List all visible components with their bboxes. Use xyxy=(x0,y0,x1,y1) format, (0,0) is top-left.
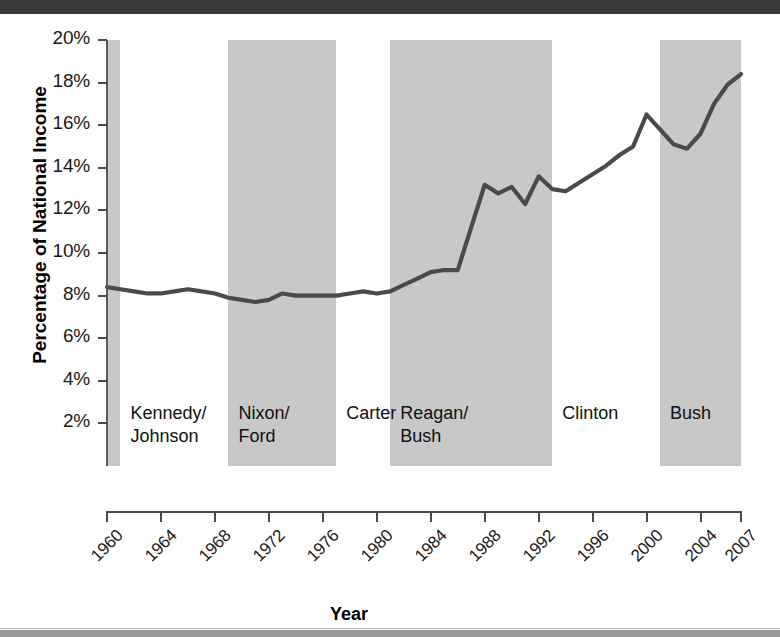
administration-label: Bush xyxy=(670,402,711,425)
x-axis-tick xyxy=(484,513,486,522)
y-axis-tick-label: 20% xyxy=(53,27,90,49)
x-axis-tick xyxy=(700,513,702,522)
x-axis-title: Year xyxy=(330,604,368,625)
x-axis-tick xyxy=(214,513,216,522)
y-axis-tick-label: 6% xyxy=(63,325,90,347)
y-axis-tick-label: 18% xyxy=(53,70,90,92)
y-axis-tick xyxy=(98,380,107,382)
administration-label-line1: Clinton xyxy=(562,402,618,425)
y-axis-tick-label: 14% xyxy=(53,155,90,177)
plot-area: Kennedy/JohnsonNixon/FordCarterReagan/Bu… xyxy=(107,40,741,466)
x-axis-tick xyxy=(740,513,742,522)
y-axis-tick xyxy=(98,422,107,424)
administration-label-line1: Carter xyxy=(346,402,396,425)
administration-label-line1: Bush xyxy=(670,402,711,425)
x-axis-tick xyxy=(376,513,378,522)
x-axis-tick xyxy=(322,513,324,522)
y-axis-tick xyxy=(98,295,107,297)
y-axis-tick xyxy=(98,252,107,254)
y-axis-tick xyxy=(98,337,107,339)
y-axis-tick-label: 12% xyxy=(53,197,90,219)
x-axis-tick xyxy=(646,513,648,522)
administration-label-line2: Johnson xyxy=(130,425,206,448)
x-axis-tick xyxy=(592,513,594,522)
y-axis-tick xyxy=(98,39,107,41)
x-axis-tick xyxy=(160,513,162,522)
y-axis-tick xyxy=(98,82,107,84)
y-axis-tick xyxy=(98,167,107,169)
administration-label-line1: Reagan/ xyxy=(400,402,468,425)
administration-label: Kennedy/Johnson xyxy=(130,402,206,448)
administration-label: Nixon/Ford xyxy=(238,402,289,448)
x-axis-tick xyxy=(106,513,108,522)
y-axis-tick-label: 8% xyxy=(63,283,90,305)
footer-rule xyxy=(0,628,780,629)
x-axis-tick xyxy=(268,513,270,522)
administration-label: Reagan/Bush xyxy=(400,402,468,448)
administration-label-line2: Ford xyxy=(238,425,289,448)
y-axis-tick xyxy=(98,209,107,211)
bottom-banner-bar xyxy=(0,630,780,637)
chart-figure: Kennedy/JohnsonNixon/FordCarterReagan/Bu… xyxy=(0,14,780,628)
x-axis-tick xyxy=(538,513,540,522)
y-axis-tick-label: 10% xyxy=(53,240,90,262)
y-axis-tick-label: 2% xyxy=(63,410,90,432)
administration-label-line1: Kennedy/ xyxy=(130,402,206,425)
top-banner-bar xyxy=(0,0,780,14)
administration-label: Clinton xyxy=(562,402,618,425)
x-axis-tick xyxy=(430,513,432,522)
x-axis-tick-label: 1960 xyxy=(0,526,127,637)
administration-label: Carter xyxy=(346,402,396,425)
y-axis-tick xyxy=(98,124,107,126)
data-line xyxy=(107,74,741,302)
administration-label-line2: Bush xyxy=(400,425,468,448)
y-axis-tick-label: 4% xyxy=(63,368,90,390)
y-axis-title: Percentage of National Income xyxy=(29,25,51,425)
y-axis-tick-label: 16% xyxy=(53,112,90,134)
administration-label-line1: Nixon/ xyxy=(238,402,289,425)
